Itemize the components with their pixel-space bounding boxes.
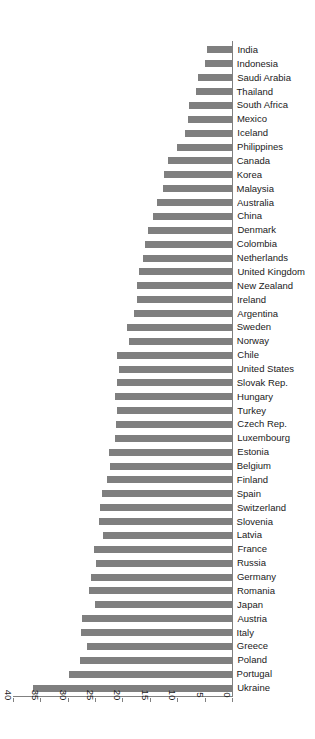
category-label: Iceland	[237, 126, 268, 140]
bar	[96, 560, 233, 567]
bar	[107, 477, 233, 484]
x-axis-ticks: 0510152025303540	[13, 662, 233, 702]
category-label: Philippines	[237, 140, 283, 154]
category-label: Czech Rep.	[237, 418, 287, 432]
bar	[94, 546, 233, 553]
bar-row: Denmark	[14, 223, 233, 237]
category-label: Romania	[237, 584, 275, 598]
bar	[117, 352, 233, 359]
bar	[117, 407, 233, 414]
category-label: Spain	[237, 487, 261, 501]
bar	[134, 310, 233, 317]
bar	[103, 532, 233, 539]
category-label: Norway	[237, 334, 269, 348]
bar-row: Germany	[14, 570, 233, 584]
bar-row: United Kingdom	[14, 265, 233, 279]
bar-row: China	[14, 209, 233, 223]
bar-row: Slovak Rep.	[14, 376, 233, 390]
bar-row: Switzerland	[14, 501, 233, 515]
bar-row: Austria	[14, 612, 233, 626]
category-label: Poland	[237, 653, 267, 667]
bar	[196, 88, 233, 95]
bar	[163, 185, 233, 192]
category-label: United States	[237, 362, 294, 376]
bar-row: Korea	[14, 168, 233, 182]
bar-row: India	[14, 43, 233, 57]
bar-row: Netherlands	[14, 251, 233, 265]
bar	[109, 449, 233, 456]
category-label: China	[237, 209, 262, 223]
category-label: Japan	[237, 598, 263, 612]
bar-row: Spain	[14, 487, 233, 501]
category-label: South Africa	[237, 98, 288, 112]
category-label: Chile	[237, 348, 259, 362]
bar-row: Chile	[14, 348, 233, 362]
bar	[82, 615, 233, 622]
bar-row: Romania	[14, 584, 233, 598]
bar-row: Italy	[14, 626, 233, 640]
bar	[153, 213, 233, 220]
bar	[87, 643, 233, 650]
bar	[115, 435, 233, 442]
bar-row: Slovenia	[14, 515, 233, 529]
category-label: Sweden	[237, 320, 271, 334]
x-tick-label: 40	[3, 685, 14, 705]
category-label: Russia	[237, 556, 266, 570]
category-label: New Zealand	[237, 279, 293, 293]
bar-row: Turkey	[14, 404, 233, 418]
bar	[115, 393, 233, 400]
bar-row: New Zealand	[14, 279, 233, 293]
bar	[127, 324, 233, 331]
category-label: Estonia	[237, 445, 269, 459]
bar-row: Malaysia	[14, 182, 233, 196]
bar	[207, 46, 233, 53]
bar-row: Estonia	[14, 445, 233, 459]
category-label: Korea	[237, 168, 262, 182]
category-label: France	[237, 542, 267, 556]
bar	[110, 463, 233, 470]
bars-container: UkrainePortugalPolandGreeceItalyAustriaJ…	[14, 43, 233, 695]
category-label: Netherlands	[237, 251, 288, 265]
bar-row: Colombia	[14, 237, 233, 251]
bar	[188, 116, 233, 123]
bar-row: Latvia	[14, 529, 233, 543]
x-tick-label: 30	[58, 685, 69, 705]
bar-row: Canada	[14, 154, 233, 168]
bar	[205, 60, 233, 67]
category-label: Australia	[237, 196, 274, 210]
x-tick-label: 35	[30, 685, 41, 705]
category-label: Portugal	[237, 667, 272, 681]
category-label: Malaysia	[237, 182, 275, 196]
bar	[148, 227, 233, 234]
bar	[81, 629, 233, 636]
bar-chart-figure: UkrainePortugalPolandGreeceItalyAustriaJ…	[0, 0, 315, 739]
x-tick-label: 0	[222, 685, 233, 705]
category-label: Belgium	[237, 459, 271, 473]
bar-row: Luxembourg	[14, 431, 233, 445]
bar-row: Sweden	[14, 320, 233, 334]
category-label: Argentina	[237, 307, 278, 321]
bar	[143, 255, 233, 262]
category-label: Saudi Arabia	[237, 71, 291, 85]
category-label: Austria	[237, 612, 267, 626]
bar-row: Saudi Arabia	[14, 71, 233, 85]
bar-row: Russia	[14, 556, 233, 570]
chart-plot-area: UkrainePortugalPolandGreeceItalyAustriaJ…	[0, 0, 315, 739]
x-tick-label: 5	[195, 685, 206, 705]
bar	[139, 268, 233, 275]
x-tick-label: 25	[85, 685, 96, 705]
bar-row: Iceland	[14, 126, 233, 140]
bar	[89, 587, 233, 594]
bar	[91, 574, 233, 581]
bar-row: Ireland	[14, 293, 233, 307]
category-label: Thailand	[237, 85, 273, 99]
bar	[164, 171, 233, 178]
category-label: Greece	[237, 639, 268, 653]
bar-row: South Africa	[14, 99, 233, 113]
bar	[168, 157, 233, 164]
bar	[137, 296, 233, 303]
category-label: Mexico	[237, 112, 267, 126]
bar-row: Mexico	[14, 112, 233, 126]
category-label: Slovak Rep.	[237, 376, 288, 390]
category-label: Germany	[237, 570, 276, 584]
